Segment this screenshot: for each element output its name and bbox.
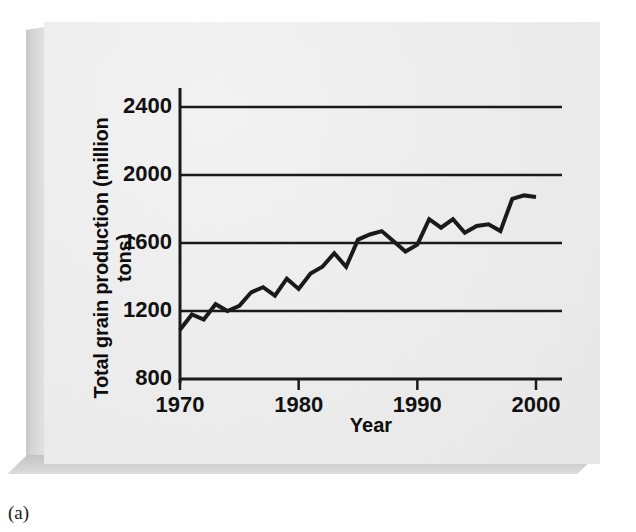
x-axis-title: Year	[180, 414, 562, 437]
y-axis-title: Total grain production (million tons)	[90, 98, 136, 418]
data-series-line	[180, 195, 536, 329]
x-tick-marks	[180, 379, 536, 390]
gridlines	[180, 107, 562, 379]
figure-caption: (a)	[8, 502, 29, 524]
figure-panel: 8001200160020002400 1970198019902000 Tot…	[0, 0, 636, 500]
